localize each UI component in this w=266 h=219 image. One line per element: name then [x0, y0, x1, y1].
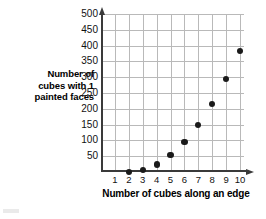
y-axis-tick-label: 300 [81, 72, 98, 82]
data-point [209, 101, 215, 107]
data-point [154, 161, 160, 167]
data-point [195, 122, 201, 128]
gridline-vertical [184, 14, 185, 172]
plot-area: 50100150200250300350400450500 1234567891… [101, 14, 247, 172]
x-axis-tick-label: 1 [112, 175, 117, 185]
gridline-horizontal [101, 46, 244, 47]
x-axis-arrow-icon [246, 169, 254, 175]
gridline-vertical [226, 14, 227, 172]
y-axis-title: Number of cubes with 1 painted faces [2, 68, 94, 103]
gridline-vertical [157, 14, 158, 172]
x-axis-tick-label: 9 [223, 175, 228, 185]
gridline-vertical [212, 14, 213, 172]
gridline-vertical [129, 14, 130, 172]
y-axis-arrow-icon [99, 7, 105, 15]
x-axis-tick-label: 10 [235, 175, 246, 185]
data-point [181, 139, 187, 145]
gridline-vertical [171, 14, 172, 172]
gridline-vertical [143, 14, 144, 172]
y-axis-tick-label: 500 [81, 9, 98, 19]
gridline-vertical [240, 14, 241, 172]
x-axis-tick-label: 2 [126, 175, 131, 185]
y-axis-tick-label: 450 [81, 25, 98, 35]
gridline-vertical [115, 14, 116, 172]
y-axis-tick-label: 100 [81, 135, 98, 145]
data-point [126, 169, 132, 175]
page-artifact [3, 209, 19, 213]
x-axis-tick-label: 5 [168, 175, 173, 185]
y-axis-title-line-2: cubes with 1 [2, 80, 94, 92]
data-point [167, 152, 173, 158]
x-axis-tick-label: 6 [182, 175, 187, 185]
y-axis-tick-label: 50 [87, 151, 98, 161]
y-axis-tick-label: 250 [81, 88, 98, 98]
gridline-horizontal [101, 125, 244, 126]
y-axis-title-line-1: Number of [2, 68, 94, 80]
y-axis-tick-label: 150 [81, 120, 98, 130]
y-axis-title-line-3: painted faces [2, 91, 94, 103]
x-axis-tick-label: 3 [140, 175, 145, 185]
gridline-horizontal [101, 30, 244, 31]
gridline-vertical [198, 14, 199, 172]
x-axis-line [101, 170, 247, 172]
y-axis-tick-label: 350 [81, 56, 98, 66]
gridline-horizontal [101, 93, 244, 94]
y-axis-line [101, 14, 103, 172]
y-axis-tick-label: 200 [81, 104, 98, 114]
gridline-horizontal [101, 14, 244, 15]
data-point [223, 76, 229, 82]
gridline-horizontal [101, 140, 244, 141]
gridline-horizontal [101, 109, 244, 110]
scatter-plot-figure: Number of cubes with 1 painted faces 501… [0, 0, 266, 219]
gridline-horizontal [101, 61, 244, 62]
x-axis-tick-label: 8 [210, 175, 215, 185]
x-axis-title: Number of cubes along an edge [88, 188, 264, 199]
x-axis-tick-label: 4 [154, 175, 159, 185]
data-point [237, 48, 243, 54]
x-axis-tick-label: 7 [196, 175, 201, 185]
y-axis-tick-label: 400 [81, 41, 98, 51]
data-point [140, 167, 146, 173]
